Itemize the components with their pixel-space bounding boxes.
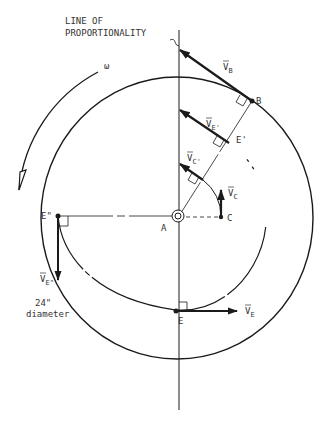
vector-v-e-prime [180,110,229,143]
v-e-double-prime-label: VE" [40,274,54,287]
label-leader [170,39,179,46]
line-of-proportionality-label-1: LINE OF [65,16,103,26]
point-c-label: C [227,213,232,223]
line-of-proportionality-label-2: PROPORTIONALITY [65,28,147,38]
rotation-arc [19,72,98,190]
pivot-a-outer [172,210,184,222]
velocity-diagram: LINE OF PROPORTIONALITY ω VB B VE' E' VC… [0,0,327,424]
v-c-prime-label: VC' [187,153,201,166]
v-e-label: VE [245,306,255,319]
point-b-label: B [256,96,261,106]
omega-label: ω [104,61,110,71]
v-b-label: VB [223,62,233,75]
c-path-arc [203,180,221,217]
point-e-prime-label: E' [236,135,247,145]
point-e-label: E [178,316,183,326]
point-c [219,215,223,219]
rotation-arrowhead-icon [19,170,26,190]
dimension-value: 24" [35,298,51,308]
point-a-label: A [161,223,167,233]
dimension-label: diameter [26,309,70,319]
vector-v-c-prime [180,164,203,180]
v-c-label: VC [228,188,238,201]
point-e-double-prime-label: E" [41,211,52,221]
vector-v-b [180,50,252,101]
